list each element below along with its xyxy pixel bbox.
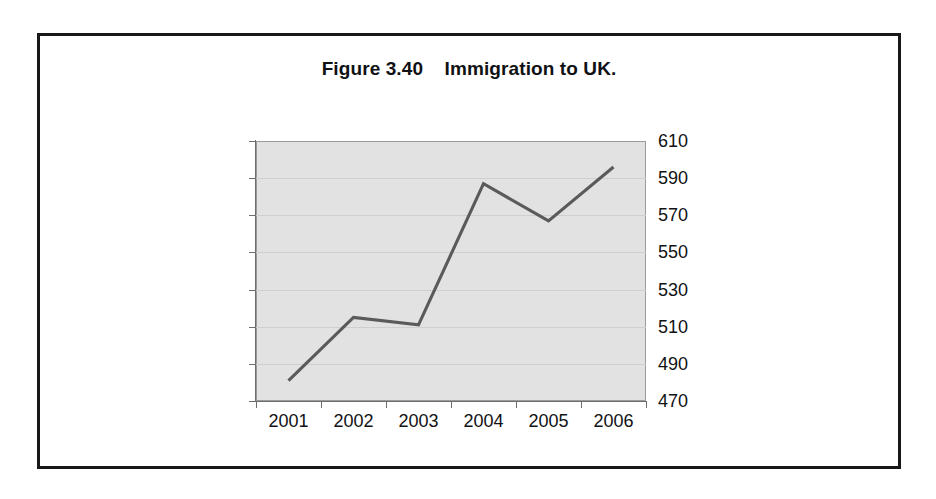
x-axis-tick-label: 2002	[319, 411, 389, 432]
x-axis-tick	[516, 401, 517, 408]
x-axis-tick-label: 2006	[579, 411, 649, 432]
x-axis-tick-label: 2001	[254, 411, 324, 432]
y-axis-tick	[249, 290, 256, 291]
x-axis-tick	[451, 401, 452, 408]
x-axis-tick-label: 2004	[449, 411, 519, 432]
x-axis-tick	[321, 401, 322, 408]
y-axis-tick-label: 470	[658, 391, 728, 412]
figure-title: Figure 3.40 Immigration to UK.	[40, 58, 898, 80]
y-axis-tick-label: 550	[658, 242, 728, 263]
y-axis-tick-label: 510	[658, 316, 728, 337]
y-axis-tick-label: 590	[658, 168, 728, 189]
x-axis-tick	[256, 401, 257, 408]
figure-frame: Figure 3.40 Immigration to UK. 470490510…	[37, 33, 901, 469]
y-axis-tick	[249, 327, 256, 328]
x-axis-tick	[646, 401, 647, 408]
y-axis-tick	[249, 215, 256, 216]
x-axis-tick-label: 2003	[384, 411, 454, 432]
x-axis-tick	[581, 401, 582, 408]
x-axis-tick	[386, 401, 387, 408]
series-plot	[256, 141, 646, 401]
line-chart: 470490510530550570590610 200120022003200…	[256, 141, 646, 401]
y-axis-tick-label: 610	[658, 131, 728, 152]
y-axis-tick	[249, 178, 256, 179]
y-axis-tick-label: 570	[658, 205, 728, 226]
y-axis-tick	[249, 252, 256, 253]
y-axis-tick	[249, 364, 256, 365]
y-axis-tick	[249, 141, 256, 142]
y-axis-tick	[249, 401, 256, 402]
y-axis-tick-label: 490	[658, 353, 728, 374]
x-axis-tick-label: 2005	[514, 411, 584, 432]
y-axis-tick-label: 530	[658, 279, 728, 300]
series-line-immigration	[289, 167, 614, 381]
